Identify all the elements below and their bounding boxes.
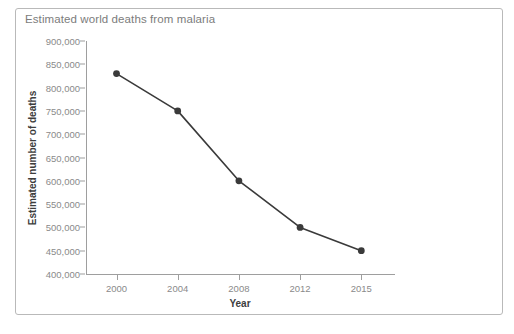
y-axis-title: Estimated number of deaths [27, 91, 38, 225]
data-point-marker [358, 247, 365, 254]
data-point-marker [297, 224, 304, 231]
data-point-marker [113, 70, 120, 77]
x-axis-title: Year [229, 298, 250, 309]
plot-area: 900,000850,000800,000750,000700,000650,0… [0, 0, 514, 334]
chart-figure: Estimated world deaths from malaria 900,… [0, 0, 514, 334]
data-series-line [0, 0, 514, 334]
data-point-marker [174, 108, 181, 115]
data-point-marker [236, 177, 243, 184]
